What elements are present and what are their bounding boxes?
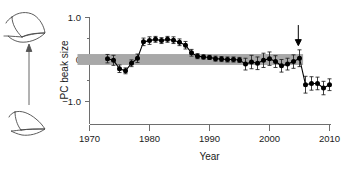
data-point xyxy=(321,86,326,91)
data-point xyxy=(213,56,218,61)
y-tick-label: 1.0 xyxy=(68,12,81,23)
x-tick-label: 1980 xyxy=(139,133,160,144)
data-point xyxy=(285,62,290,67)
data-point xyxy=(171,38,176,43)
up-arrow-icon xyxy=(26,44,32,105)
data-point xyxy=(105,56,110,61)
data-point xyxy=(315,81,320,86)
data-point xyxy=(177,40,182,45)
beak-size-time-series-figure: 1.0 0 −1.0 1970 1980 1990 2000 2010 Year… xyxy=(0,0,342,170)
data-point xyxy=(123,68,128,73)
data-point xyxy=(267,56,272,61)
data-point xyxy=(249,60,254,65)
data-point xyxy=(117,66,122,71)
data-point xyxy=(327,82,332,87)
large-deep-beak-icon xyxy=(4,13,45,43)
x-tick-labels: 1970 1980 1990 2000 2010 xyxy=(79,133,340,144)
data-point xyxy=(189,50,194,55)
chart-canvas: 1.0 0 −1.0 1970 1980 1990 2000 2010 Year… xyxy=(0,0,342,170)
data-point xyxy=(195,54,200,59)
data-point xyxy=(279,63,284,68)
data-point xyxy=(141,39,146,44)
data-point xyxy=(243,62,248,67)
event-arrow xyxy=(295,25,301,46)
data-point xyxy=(303,82,308,87)
data-point xyxy=(291,59,296,64)
data-point xyxy=(273,59,278,64)
data-point xyxy=(153,37,158,42)
x-tick-label: 2000 xyxy=(259,133,280,144)
axes xyxy=(85,17,332,131)
data-point xyxy=(111,58,116,63)
x-tick-label: 2010 xyxy=(319,133,340,144)
small-pointed-beak-icon xyxy=(9,111,45,135)
data-point xyxy=(129,61,134,66)
data-point xyxy=(147,38,152,43)
y-axis-title: PC beak size xyxy=(59,40,70,99)
x-tick-label: 1970 xyxy=(79,133,100,144)
data-point xyxy=(237,57,242,62)
data-point xyxy=(261,58,266,63)
data-point xyxy=(135,56,140,61)
data-point xyxy=(219,57,224,62)
data-point xyxy=(309,81,314,86)
data-point xyxy=(225,57,230,62)
side-panel xyxy=(4,13,45,136)
data-point xyxy=(207,55,212,60)
x-axis-title: Year xyxy=(199,151,220,162)
data-point xyxy=(165,37,170,42)
data-point xyxy=(201,54,206,59)
data-point xyxy=(159,38,164,43)
data-point xyxy=(255,61,260,66)
data-point xyxy=(297,56,302,61)
x-tick-label: 1990 xyxy=(199,133,220,144)
data-point xyxy=(231,57,236,62)
data-point xyxy=(183,43,188,48)
